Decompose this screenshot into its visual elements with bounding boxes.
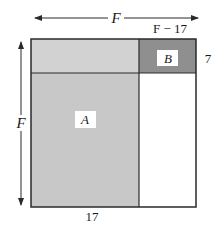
region-b-label: B [164,51,172,66]
bottom-segment-label: 17 [86,209,100,224]
square-area-diagram: F F − 17 7 F 17 A B [0,0,221,230]
top-right-segment-label: F − 17 [153,21,188,36]
left-dimension-label: F [15,115,26,131]
top-left-strip [31,39,139,73]
bottom-right-region [139,73,196,207]
region-a-label: A [80,112,89,127]
top-dimension-label: F [110,10,121,26]
region-a [31,73,139,207]
right-strip-height-label: 7 [205,51,212,66]
